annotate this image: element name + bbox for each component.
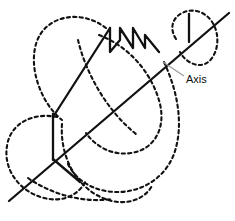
axis-label: Axis <box>186 73 207 85</box>
axis-diagram-svg: Axis <box>0 0 235 221</box>
figure-background <box>0 0 235 221</box>
figure-container: Axis <box>0 0 235 221</box>
